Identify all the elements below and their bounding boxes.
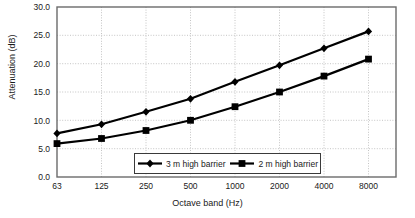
x-tick-label: 8000 xyxy=(347,181,391,191)
diamond-marker-icon xyxy=(137,158,163,169)
x-tick-label: 2000 xyxy=(258,181,302,191)
x-tick-label: 500 xyxy=(169,181,213,191)
legend-label-3m: 3 m high barrier xyxy=(166,159,226,169)
grid-lines xyxy=(57,7,396,177)
x-axis-title: Octave band (Hz) xyxy=(0,198,415,208)
legend-label-2m: 2 m high barrier xyxy=(258,159,318,169)
attenuation-octave-band-chart: Attenuation (dB) 30.0 25.0 20.0 15.0 10.… xyxy=(0,0,415,218)
x-tick-label: 1000 xyxy=(213,181,257,191)
x-tick-label: 250 xyxy=(124,181,168,191)
legend-entry-2m: 2 m high barrier xyxy=(229,158,318,169)
legend: 3 m high barrier 2 m high barrier xyxy=(134,153,321,174)
x-tick-label: 63 xyxy=(35,181,79,191)
square-marker-icon xyxy=(229,158,255,169)
x-tick-label: 125 xyxy=(80,181,124,191)
legend-entry-3m: 3 m high barrier xyxy=(137,158,226,169)
x-tick-label: 4000 xyxy=(302,181,346,191)
